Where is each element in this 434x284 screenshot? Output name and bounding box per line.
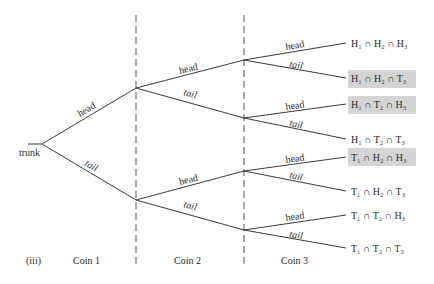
branch-label: head [178, 172, 199, 187]
branch-label: head [75, 100, 97, 119]
branch-label: tail [182, 86, 198, 100]
outcome-label: H₁ ∩ H₂ ∩ T₃ [351, 73, 406, 84]
root-label: trunk [19, 147, 40, 158]
column-label-coin1: Coin 1 [73, 255, 100, 266]
panel-label: (iii) [26, 255, 41, 267]
branch-label: tail [289, 228, 304, 241]
outcome-label: T₁ ∩ H₂ ∩ T₃ [351, 186, 405, 197]
branch-label: head [285, 209, 305, 223]
branch-label: tail [83, 157, 100, 173]
probability-tree-diagram: trunk head tail head tail head tail head… [0, 0, 434, 284]
outcome-label: T₁ ∩ H₂ ∩ H₃ [351, 152, 406, 163]
branch-label: head [178, 61, 199, 76]
outcome-label: H₁ ∩ H₂ ∩ H₃ [351, 38, 408, 49]
outcome-label: T₁ ∩ T₂ ∩ H₃ [351, 210, 405, 221]
branch-label: tail [289, 117, 304, 130]
column-label-coin3: Coin 3 [281, 255, 308, 266]
outcome-label: H₁ ∩ T₂ ∩ T₃ [351, 134, 405, 145]
outcome-label: T₁ ∩ T₂ ∩ T₃ [351, 243, 404, 254]
outcome-label: H₁ ∩ T₂ ∩ H₃ [351, 99, 406, 110]
column-label-coin2: Coin 2 [174, 255, 201, 266]
branch-coin1-head [42, 88, 136, 144]
branch-coin1-tail [42, 144, 136, 200]
branch-label: tail [182, 198, 198, 212]
branch-label: tail [289, 58, 304, 71]
